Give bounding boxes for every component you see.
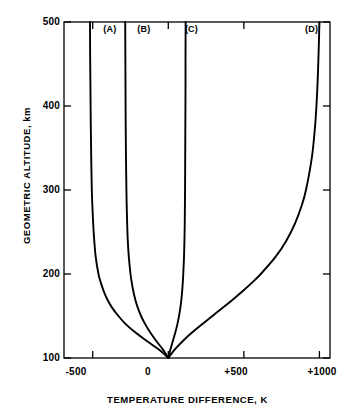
axes-frame <box>64 22 330 358</box>
data-curves <box>90 22 319 358</box>
tick-marks <box>64 22 330 358</box>
plot-area <box>0 0 351 419</box>
figure-root: GEOMETRIC ALTITUDE, km 500 400 300 200 1… <box>0 0 351 419</box>
